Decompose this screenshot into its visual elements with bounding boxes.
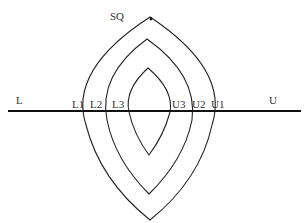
label-u2: U2 <box>192 98 205 110</box>
label-u: U <box>269 94 277 106</box>
label-l: L <box>16 94 23 106</box>
middle-lens <box>106 39 193 194</box>
outer-lens <box>83 17 216 220</box>
label-u1: U1 <box>211 98 224 110</box>
label-u3: U3 <box>172 98 186 110</box>
label-l2: L2 <box>90 98 102 110</box>
label-sq: SQ <box>110 10 124 22</box>
label-l3: L3 <box>112 98 125 110</box>
label-l1: L1 <box>72 98 84 110</box>
apex-dot <box>150 18 153 21</box>
nested-lens-diagram: SQ L U L1 L2 L3 U3 U2 U1 <box>0 0 308 223</box>
